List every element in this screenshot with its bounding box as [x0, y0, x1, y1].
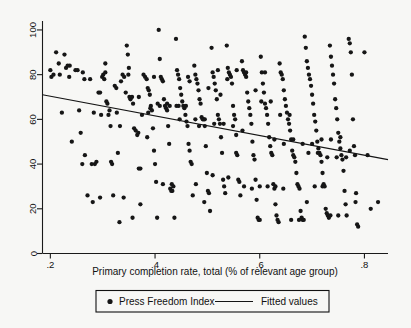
data-point: [209, 46, 213, 50]
data-point: [253, 88, 257, 92]
data-point: [344, 213, 348, 217]
y-tick-label-20: 20: [28, 203, 39, 214]
data-point: [250, 140, 254, 144]
data-point: [145, 135, 149, 139]
data-point: [226, 66, 230, 70]
data-point: [221, 122, 225, 126]
data-point: [247, 106, 251, 110]
legend-marker-dot: [107, 299, 112, 304]
data-point: [114, 86, 118, 90]
data-point: [303, 35, 307, 39]
data-point: [105, 102, 109, 106]
data-point: [62, 52, 66, 56]
data-point: [152, 149, 156, 153]
data-point: [215, 97, 219, 101]
data-point: [178, 86, 182, 90]
data-point: [319, 160, 323, 164]
data-point: [119, 79, 123, 83]
data-point: [283, 97, 287, 101]
data-point: [281, 77, 285, 81]
data-point: [79, 131, 83, 135]
data-point: [152, 75, 156, 79]
data-point: [92, 111, 96, 115]
data-point: [213, 81, 217, 85]
data-point: [313, 119, 317, 123]
data-point: [269, 99, 273, 103]
data-point: [156, 102, 160, 106]
data-point: [234, 151, 238, 155]
data-point: [325, 155, 329, 159]
data-point: [233, 117, 237, 121]
data-point: [91, 200, 95, 204]
data-point: [190, 162, 194, 166]
data-point: [259, 55, 263, 59]
data-point: [244, 75, 248, 79]
data-point: [298, 209, 302, 213]
data-point: [218, 122, 222, 126]
data-point: [54, 50, 58, 54]
data-point: [249, 122, 253, 126]
data-point: [177, 77, 181, 81]
data-point: [343, 202, 347, 206]
data-point: [206, 86, 210, 90]
data-point: [166, 124, 170, 128]
data-point: [174, 104, 178, 108]
data-point: [258, 218, 262, 222]
data-point: [315, 140, 319, 144]
data-point: [330, 64, 334, 68]
data-point: [320, 184, 324, 188]
data-point: [332, 81, 336, 85]
data-point: [376, 200, 380, 204]
data-point: [148, 106, 152, 110]
data-point: [314, 128, 318, 132]
data-point: [205, 171, 209, 175]
data-point: [154, 180, 158, 184]
data-point: [103, 61, 107, 65]
data-point: [294, 171, 298, 175]
data-point: [329, 137, 333, 141]
data-point: [311, 102, 315, 106]
data-point: [344, 155, 348, 159]
data-point: [309, 84, 313, 88]
data-point: [328, 43, 332, 47]
data-point: [313, 184, 317, 188]
data-point: [232, 113, 236, 117]
data-point: [289, 218, 293, 222]
data-point: [158, 57, 162, 61]
data-point: [230, 81, 234, 85]
data-point: [231, 104, 235, 108]
data-point: [306, 66, 310, 70]
data-point: [186, 75, 190, 79]
data-point: [312, 113, 316, 117]
data-point: [292, 155, 296, 159]
data-point: [329, 55, 333, 59]
x-tick-label-.8: .8: [360, 259, 368, 270]
data-point: [151, 126, 155, 130]
data-point: [138, 166, 142, 170]
data-point: [244, 70, 248, 74]
data-point: [138, 202, 142, 206]
data-point: [179, 93, 183, 97]
data-point: [126, 73, 130, 77]
y-tick-label-80: 80: [28, 69, 39, 80]
data-point: [106, 113, 110, 117]
data-point: [316, 151, 320, 155]
data-point: [259, 99, 263, 103]
data-point: [240, 59, 244, 63]
data-point: [319, 137, 323, 141]
data-point: [254, 198, 258, 202]
data-point: [251, 153, 255, 157]
data-point: [270, 153, 274, 157]
data-point: [136, 131, 140, 135]
data-point: [340, 157, 344, 161]
data-point: [124, 90, 128, 94]
data-point: [176, 73, 180, 77]
legend-label-press-freedom-index: Press Freedom Index: [119, 296, 215, 307]
data-point: [197, 97, 201, 101]
data-point: [165, 102, 169, 106]
data-point: [221, 178, 225, 182]
data-point: [223, 191, 227, 195]
data-point: [218, 93, 222, 97]
data-point: [210, 70, 214, 74]
data-point: [307, 73, 311, 77]
